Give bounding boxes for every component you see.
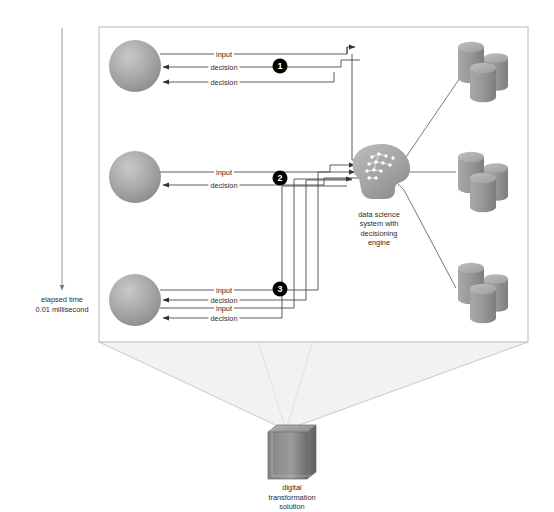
edge-label-decision-3b: decision: [208, 314, 239, 323]
elapsed-time-line1: elapsed time: [14, 295, 110, 305]
step-badge-2: 2: [273, 171, 288, 186]
actor-sphere-top: [109, 40, 161, 92]
engine-label-line2: system with: [337, 219, 421, 228]
step-badge-3: 3: [273, 282, 288, 297]
solution-label-line3: solution: [237, 502, 347, 512]
elapsed-time-label: elapsed time 0.01 millisecond: [14, 295, 110, 314]
edge-label-input-2a: input: [214, 168, 234, 177]
solution-label-line1: digital: [237, 483, 347, 493]
step-badge-1: 1: [273, 59, 288, 74]
edge-label-input-3a: input: [214, 286, 234, 295]
solution-label: digital transformation solution: [237, 483, 347, 512]
edge-label-decision-2a: decision: [208, 181, 239, 190]
engine-label-line3: decisioning: [337, 229, 421, 238]
edge-label-input-3b: input: [214, 304, 234, 313]
engine-label-line4: engine: [337, 238, 421, 247]
edge-label-decision-1a: decision: [208, 63, 239, 72]
engine-label: data science system with decisioning eng…: [337, 210, 421, 248]
solution-cube-icon: [268, 425, 316, 479]
actor-sphere-bottom: [109, 274, 161, 326]
edge-label-decision-1b: decision: [208, 78, 239, 87]
solution-label-line2: transformation: [237, 493, 347, 503]
projection-cone: [99, 341, 528, 430]
edge-label-input-1a: input: [214, 50, 234, 59]
actor-sphere-middle: [109, 151, 161, 203]
elapsed-time-line2: 0.01 millisecond: [14, 305, 110, 315]
engine-label-line1: data science: [337, 210, 421, 219]
